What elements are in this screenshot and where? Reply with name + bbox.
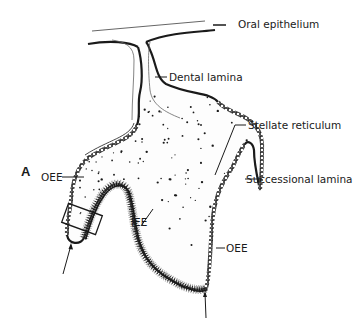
stellate-cell-dot xyxy=(195,200,196,201)
stellate-cell-dot xyxy=(208,216,210,218)
stellate-cell-dot xyxy=(95,161,96,162)
stellate-cell-dot xyxy=(168,138,170,140)
label-iee: IEE xyxy=(131,216,147,228)
stellate-cell-dot xyxy=(80,212,81,213)
stellate-cell-dot xyxy=(182,135,184,137)
stellate-cell-dot xyxy=(141,141,143,143)
stellate-cell-dot xyxy=(209,206,211,208)
label-oee-left: OEE xyxy=(41,171,63,183)
stellate-cell-dot xyxy=(224,173,225,174)
stellate-cell-dot xyxy=(168,201,169,202)
stellate-cell-dot xyxy=(135,140,137,142)
stellate-cell-dot xyxy=(182,206,184,208)
stellate-cell-dot xyxy=(144,109,146,111)
stellate-cell-dot xyxy=(187,169,189,171)
stellate-cell-dot xyxy=(120,151,122,153)
stellate-cell-dot xyxy=(167,128,168,129)
arrow-left xyxy=(63,243,73,274)
label-oral-epithelium: Oral epithelium xyxy=(238,18,319,30)
stellate-cell-dot xyxy=(166,142,168,144)
stellate-cell-dot xyxy=(201,181,203,183)
stellate-cell-dot xyxy=(139,158,141,160)
stellate-cell-dot xyxy=(167,106,169,108)
stellate-cell-dot xyxy=(190,197,191,198)
stellate-cell-dot xyxy=(152,115,154,117)
stellate-cell-dot xyxy=(169,227,171,229)
stellate-cell-dot xyxy=(187,178,189,180)
stellate-cell-dot xyxy=(146,151,148,153)
stellate-cell-dot xyxy=(158,110,160,112)
stellate-cell-dot xyxy=(143,161,144,162)
label-successional-lamina: Successional lamina xyxy=(246,173,353,185)
stellate-cell-dot xyxy=(98,173,100,175)
stellate-cell-dot xyxy=(204,132,206,134)
stellate-cell-dot xyxy=(138,162,139,163)
tooth-germ-diagram: Oral epithelium Dental lamina Stellate r… xyxy=(0,0,359,330)
stellate-cell-dot xyxy=(190,244,192,246)
stellate-cell-dot xyxy=(79,180,81,182)
stellate-cell-dot xyxy=(175,194,177,196)
label-dental-lamina: Dental lamina xyxy=(169,71,243,83)
stellate-cell-dot xyxy=(200,148,201,149)
stellate-cell-dot xyxy=(86,168,87,169)
stellate-cell-dot xyxy=(88,161,90,163)
stellate-cell-dot xyxy=(185,178,186,179)
stellate-cell-dot xyxy=(231,122,233,124)
stellate-cell-dot xyxy=(93,189,94,190)
stellate-cell-dot xyxy=(163,142,165,144)
stellate-cell-dot xyxy=(198,123,200,125)
stellate-cell-dot xyxy=(101,178,103,180)
stellate-cell-dot xyxy=(123,178,125,180)
stellate-cell-dot xyxy=(150,100,151,101)
panel-label: A xyxy=(21,164,31,179)
stellate-cell-dot xyxy=(174,174,175,175)
stellate-cell-dot xyxy=(138,177,140,179)
stellate-cell-dot xyxy=(169,178,171,180)
stellate-cell-dot xyxy=(186,121,188,123)
stellate-cell-dot xyxy=(91,170,93,172)
oral-epithelium xyxy=(88,21,226,47)
stellate-cell-dot xyxy=(98,188,100,190)
stellate-cell-dot xyxy=(147,111,149,113)
stellate-cell-dot xyxy=(154,96,156,98)
stellate-cell-dot xyxy=(207,97,209,99)
stellate-cell-dot xyxy=(113,152,114,153)
arrow-bottom xyxy=(203,291,207,318)
stellate-cell-dot xyxy=(98,180,100,182)
stellate-cell-dot xyxy=(193,112,195,114)
stellate-cell-dot xyxy=(162,124,164,126)
stellate-cell-dot xyxy=(179,218,181,220)
stellate-cell-dot xyxy=(79,187,81,189)
label-oee-right: OEE xyxy=(226,242,248,254)
dental-lamina-inner-line xyxy=(112,40,134,120)
stellate-cell-dot xyxy=(161,199,163,201)
stellate-cell-dot xyxy=(185,183,186,184)
stellate-cell-dot xyxy=(141,138,143,140)
stellate-cell-dot xyxy=(164,139,166,141)
stellate-cell-dot xyxy=(246,139,248,141)
stellate-cell-dot xyxy=(174,154,175,155)
stellate-cell-dot xyxy=(209,104,211,106)
stellate-cell-dot xyxy=(200,162,202,164)
stellate-cell-dot xyxy=(111,160,113,162)
stellate-cell-dot xyxy=(101,156,102,157)
stellate-cell-dot xyxy=(98,171,99,172)
stellate-cell-dot xyxy=(190,106,192,108)
stellate-cell-dot xyxy=(197,138,199,140)
stellate-cell-dot xyxy=(171,157,172,158)
stellate-cell-dot xyxy=(198,188,199,189)
stellate-cell-dot xyxy=(197,120,198,121)
stellate-cell-dot xyxy=(129,161,131,163)
stellate-cell-dot xyxy=(157,181,159,183)
stellate-cell-dot xyxy=(204,219,206,221)
stellate-cell-dot xyxy=(138,116,140,118)
stellate-cell-dot xyxy=(84,196,86,198)
stellate-cell-dot xyxy=(160,111,161,112)
stellate-cell-dot xyxy=(138,123,140,125)
stellate-cell-dot xyxy=(160,178,162,180)
stellate-cell-dot xyxy=(113,174,115,176)
stellate-cell-dot xyxy=(200,124,202,126)
stellate-cell-dot xyxy=(185,172,187,174)
label-stellate-reticulum: Stellate reticulum xyxy=(248,119,341,131)
stellate-cell-dot xyxy=(181,118,183,120)
